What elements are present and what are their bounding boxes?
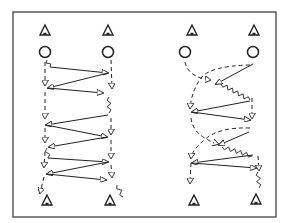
pass-arrow <box>219 132 249 145</box>
cone-icon <box>251 194 261 204</box>
cone-icon <box>42 195 52 205</box>
player-icon <box>40 47 51 58</box>
run-arrow <box>185 62 210 80</box>
pass-arrow <box>192 163 256 168</box>
pass-arrow <box>48 158 108 162</box>
pass-arrow <box>192 112 250 120</box>
run-arrow <box>111 60 112 88</box>
cone-icon <box>103 25 113 35</box>
pass-arrow <box>50 67 108 73</box>
pass-arrow <box>49 137 107 147</box>
cone-icon <box>40 25 50 35</box>
dribble-line <box>107 97 111 113</box>
player-icon <box>180 47 191 58</box>
dribble-line <box>117 185 123 197</box>
player-icon <box>103 47 114 58</box>
run-arrow <box>191 128 250 158</box>
run-arrow <box>40 177 44 193</box>
run-arrow <box>190 163 191 183</box>
pass-arrow <box>46 125 107 137</box>
player-icon <box>248 47 259 58</box>
player-runs <box>40 60 259 193</box>
cone-icon <box>249 25 259 35</box>
players <box>40 47 259 58</box>
cone-icon <box>187 25 197 35</box>
pass-arrow <box>48 88 103 93</box>
pass-arrow <box>192 155 253 163</box>
cones <box>40 25 261 205</box>
pass-arrow <box>48 73 108 88</box>
run-arrow <box>191 118 218 144</box>
pass-arrow <box>216 64 253 84</box>
pass-arrow <box>46 115 108 125</box>
passes <box>46 64 256 180</box>
cone-icon <box>105 195 115 205</box>
dribble-line <box>256 172 261 188</box>
run-arrow <box>258 156 259 170</box>
pass-arrow <box>47 174 106 180</box>
drill-diagram <box>0 0 283 223</box>
dribble-line <box>45 148 49 158</box>
dribble-line <box>46 60 51 67</box>
cone-icon <box>189 195 199 205</box>
diagram-frame <box>13 12 276 217</box>
dribble-line <box>221 84 250 100</box>
run-arrow <box>44 152 45 167</box>
run-arrow <box>111 165 112 177</box>
run-arrow <box>190 65 250 108</box>
dribble-line <box>222 147 252 157</box>
pass-arrow <box>192 101 250 112</box>
pass-arrow <box>47 162 108 174</box>
